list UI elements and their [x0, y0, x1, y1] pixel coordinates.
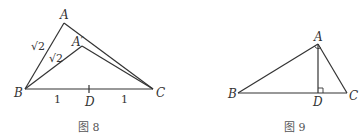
- segment-a-prime-c: [82, 46, 153, 89]
- segment-ac: [64, 23, 153, 89]
- label-a: A: [59, 8, 69, 22]
- label-c: C: [156, 86, 165, 100]
- label-d: D: [84, 95, 95, 109]
- label-c: C: [349, 89, 358, 103]
- length-dc: 1: [121, 93, 128, 106]
- label-a: A: [313, 30, 323, 44]
- label-d: D: [312, 95, 323, 109]
- length-bd: 1: [54, 93, 61, 106]
- length-ab: √2: [31, 40, 45, 53]
- right-angle-mark: [318, 88, 323, 93]
- label-b: B: [13, 86, 23, 100]
- segment-ac: [318, 44, 347, 93]
- label-b: B: [227, 87, 237, 101]
- figure-8: A A′ B C D √2 √2 1 1 图 8: [13, 8, 165, 134]
- caption-figure-9: 图 9: [284, 121, 306, 134]
- segment-ab: [238, 44, 318, 93]
- caption-figure-8: 图 8: [78, 121, 100, 134]
- diagram-canvas: A A′ B C D √2 √2 1 1 图 8 A B C D 图 9: [0, 0, 363, 138]
- length-a-prime-b: √2: [49, 52, 63, 65]
- figure-9: A B C D 图 9: [227, 30, 358, 134]
- label-a-prime: A′: [71, 35, 84, 49]
